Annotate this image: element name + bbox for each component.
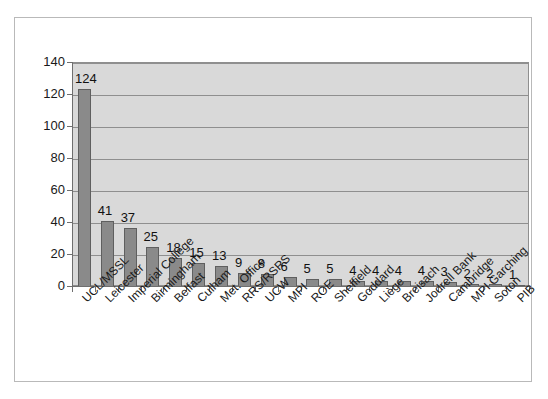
- bar: [78, 89, 91, 287]
- y-axis-tick-labels: 140120100806040200: [15, 18, 65, 318]
- gridline: [73, 159, 528, 160]
- y-axis-tick-label: 120: [19, 87, 65, 100]
- y-axis-tick-mark: [67, 94, 72, 95]
- bar-value-label: 41: [98, 204, 112, 217]
- y-axis-tick-label: 100: [19, 119, 65, 132]
- y-axis-tick-label: 140: [19, 55, 65, 68]
- y-axis-tick-mark: [67, 158, 72, 159]
- y-axis-tick-label: 60: [19, 183, 65, 196]
- bar-value-label: 5: [303, 262, 310, 275]
- y-axis-tick-mark: [67, 222, 72, 223]
- y-axis-tick-mark: [67, 62, 72, 63]
- y-axis-tick-label: 20: [19, 247, 65, 260]
- bar-value-label: 5: [326, 262, 333, 275]
- gridline: [73, 63, 528, 64]
- chart-frame: 140120100806040200 124413725181513986554…: [14, 17, 532, 382]
- y-axis-tick-label: 40: [19, 215, 65, 228]
- y-axis-tick-mark: [67, 190, 72, 191]
- bar-value-label: 13: [212, 249, 226, 262]
- bar-value-label: 9: [235, 256, 242, 269]
- bar-value-label: 124: [75, 72, 97, 85]
- x-axis-tick-mark: [72, 287, 73, 292]
- y-axis-line: [72, 62, 73, 287]
- y-axis-tick-mark: [67, 254, 72, 255]
- gridline: [73, 191, 528, 192]
- gridline: [73, 223, 528, 224]
- bar-value-label: 25: [143, 230, 157, 243]
- gridline: [73, 127, 528, 128]
- gridline: [73, 95, 528, 96]
- plot-area: [72, 62, 529, 286]
- y-axis-tick-mark: [67, 126, 72, 127]
- y-axis-tick-label: 80: [19, 151, 65, 164]
- y-axis-tick-label: 0: [19, 279, 65, 292]
- y-axis-tick-mark: [67, 286, 72, 287]
- bar-value-label: 37: [121, 211, 135, 224]
